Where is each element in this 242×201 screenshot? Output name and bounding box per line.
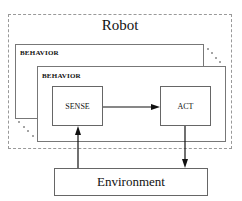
ellipsis-dots-bottom: [18, 121, 34, 137]
arrowhead-icon: [75, 126, 81, 135]
arrowhead-icon: [151, 104, 160, 110]
ellipsis-dots-top: [207, 48, 221, 63]
diagram-connectors: [0, 0, 242, 201]
arrowhead-icon: [182, 159, 188, 168]
